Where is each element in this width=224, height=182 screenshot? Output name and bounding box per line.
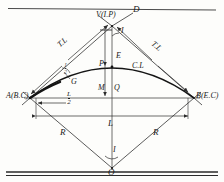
tangent-line-right <box>112 26 194 98</box>
label-center: O <box>108 168 115 177</box>
label-half-chord: L 2 <box>67 91 71 106</box>
curve-diagram: V(I.P) D I A(B.C) B(E.C) O I P E C.L M Q… <box>0 0 224 182</box>
label-central-angle: I <box>113 146 116 154</box>
half-chord-denominator: 2 <box>67 99 71 106</box>
half-angle-numerator: I <box>64 62 67 68</box>
center-angle-arc <box>105 156 118 159</box>
point-dot-v <box>111 25 113 27</box>
label-middle-ordinate: M <box>98 84 105 92</box>
label-end-curve: B(E.C) <box>196 92 218 100</box>
label-half-angle: I 2 <box>64 62 67 75</box>
label-radius-right: R <box>153 128 159 137</box>
label-external: E <box>116 52 121 60</box>
vertex-angle-arc <box>112 33 119 36</box>
label-mid-chord-point: Q <box>114 84 120 92</box>
label-arc-point: G <box>71 78 77 86</box>
label-tangent-extension: D <box>133 5 140 14</box>
label-mid-curve-point: P <box>99 60 104 68</box>
label-begin-curve: A(B.C) <box>6 92 28 100</box>
label-radius-left: R <box>60 128 66 137</box>
label-vertex: V(I.P) <box>96 11 116 19</box>
half-chord-numerator: L <box>67 91 71 98</box>
point-dot-p <box>111 66 114 69</box>
half-angle-denominator: 2 <box>64 69 67 75</box>
diagram-canvas <box>0 0 224 182</box>
label-intersection-angle: I <box>121 27 124 35</box>
label-chord: L <box>108 119 113 128</box>
tangent-left-dim-arrow-2 <box>31 66 62 94</box>
label-curve-length: C.L <box>132 62 144 70</box>
radius-line-left <box>30 98 112 168</box>
